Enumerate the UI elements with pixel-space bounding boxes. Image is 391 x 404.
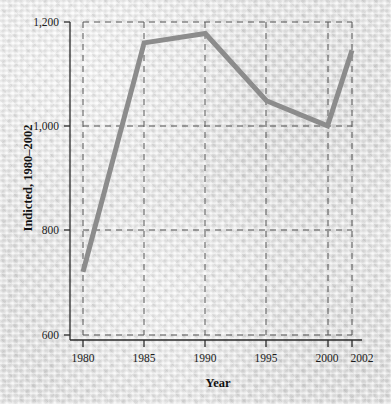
x-tick-label-1990: 1990 xyxy=(194,352,217,364)
y-axis-title: Indicted, 1980–2002 xyxy=(21,125,35,232)
horizontal-gridlines xyxy=(83,22,352,335)
x-axis-title: Year xyxy=(206,376,231,390)
y-axis: 1,200 1,000 800 600 xyxy=(33,16,70,341)
data-series-line xyxy=(83,33,352,271)
y-tick-label-1200: 1,200 xyxy=(33,16,59,29)
y-tick-label-600: 600 xyxy=(42,329,60,341)
x-tick-label-1980: 1980 xyxy=(72,352,95,364)
x-tick-label-1985: 1985 xyxy=(133,352,156,364)
y-tick-label-1000: 1,000 xyxy=(33,120,59,133)
line-chart: 1,200 1,000 800 600 1980 1985 1990 1995 … xyxy=(0,0,391,404)
y-tick-label-800: 800 xyxy=(42,224,60,236)
x-tick-label-2000: 2000 xyxy=(316,352,339,364)
vertical-gridlines xyxy=(83,22,352,335)
chart-canvas: 1,200 1,000 800 600 1980 1985 1990 1995 … xyxy=(0,0,391,404)
x-tick-label-1995: 1995 xyxy=(255,352,278,364)
x-tick-label-2002: 2002 xyxy=(351,352,374,364)
x-axis: 1980 1985 1990 1995 2000 2002 xyxy=(70,340,374,364)
